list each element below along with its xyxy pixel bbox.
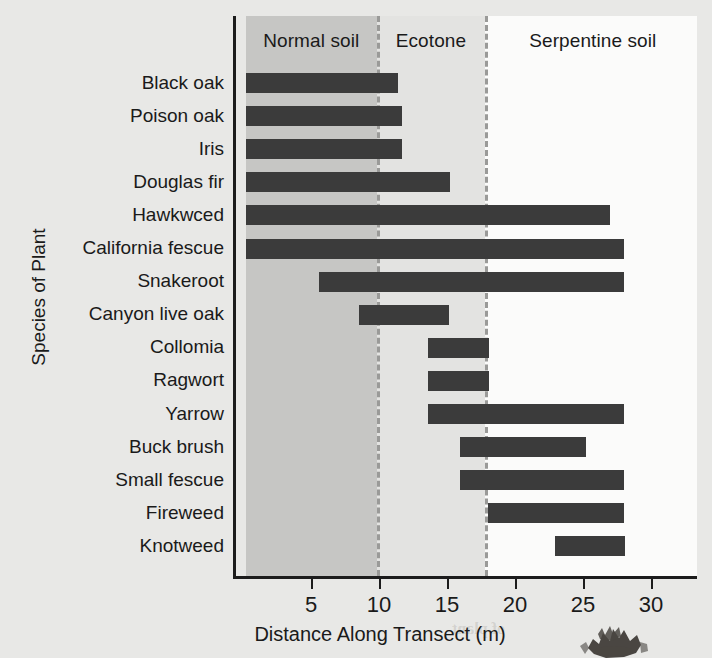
x-axis-tick-label-20: 20 xyxy=(485,592,545,618)
y-axis-label-iris: Iris xyxy=(0,139,224,159)
x-axis-tick-30 xyxy=(651,579,653,589)
x-axis-tick-20 xyxy=(515,579,517,589)
x-axis-tick-label-10: 10 xyxy=(349,592,409,618)
region-divider-2 xyxy=(485,16,488,576)
y-axis-label-poison-oak: Poison oak xyxy=(0,106,224,126)
bar-yarrow xyxy=(428,404,624,424)
soil-band-serpentine-soil xyxy=(485,16,697,576)
x-axis-tick-15 xyxy=(447,579,449,589)
y-axis-label-yarrow: Yarrow xyxy=(0,404,224,424)
soil-band-normal-soil xyxy=(246,16,377,576)
bar-ragwort xyxy=(428,371,489,391)
bar-canyon-live-oak xyxy=(359,305,449,325)
plant-photo-image xyxy=(578,620,650,658)
x-axis-tick-label-15: 15 xyxy=(417,592,477,618)
y-axis-label-black-oak: Black oak xyxy=(0,73,224,93)
bar-small-fescue xyxy=(460,470,625,490)
bar-california-fescue xyxy=(246,239,624,259)
y-axis-label-snakeroot: Snakeroot xyxy=(0,271,224,291)
x-axis-tick-10 xyxy=(379,579,381,589)
region-divider-1 xyxy=(377,16,380,576)
bar-buck-brush xyxy=(460,437,586,457)
plot-area: Normal soilEcotoneSerpentine soil xyxy=(233,16,697,579)
x-axis-title: Distance Along Transect (m) xyxy=(190,623,570,646)
bar-collomia xyxy=(428,338,489,358)
y-axis-label-buck-brush: Buck brush xyxy=(0,437,224,457)
region-label-normal-soil: Normal soil xyxy=(246,30,377,52)
y-axis-label-small-fescue: Small fescue xyxy=(0,470,224,490)
y-axis-label-knotweed: Knotweed xyxy=(0,536,224,556)
x-axis-tick-25 xyxy=(583,579,585,589)
bar-fireweed xyxy=(488,503,624,523)
chart-figure: Species of Plant Black oakPoison oakIris… xyxy=(0,0,712,658)
y-axis-label-fireweed: Fireweed xyxy=(0,503,224,523)
y-axis-label-douglas-fir: Douglas fir xyxy=(0,172,224,192)
bar-snakeroot xyxy=(319,272,624,292)
bar-douglas-fir xyxy=(246,172,450,192)
x-axis-tick-label-5: 5 xyxy=(281,592,341,618)
bar-iris xyxy=(246,139,402,159)
x-axis-tick-5 xyxy=(311,579,313,589)
bar-hawkwced xyxy=(246,205,610,225)
bar-poison-oak xyxy=(246,106,402,126)
region-label-ecotone: Ecotone xyxy=(377,30,486,52)
y-axis-label-hawkwced: Hawkwced xyxy=(0,205,224,225)
soil-band-ecotone xyxy=(377,16,486,576)
y-axis-label-collomia: Collomia xyxy=(0,337,224,357)
region-label-serpentine-soil: Serpentine soil xyxy=(485,30,697,52)
y-axis-label-ragwort: Ragwort xyxy=(0,370,224,390)
y-axis-label-canyon-live-oak: Canyon live oak xyxy=(0,304,224,324)
y-axis-label-california-fescue: California fescue xyxy=(0,238,224,258)
x-axis-tick-label-30: 30 xyxy=(621,592,681,618)
bar-black-oak xyxy=(246,73,398,93)
x-axis-tick-label-25: 25 xyxy=(553,592,613,618)
bar-knotweed xyxy=(555,536,626,556)
